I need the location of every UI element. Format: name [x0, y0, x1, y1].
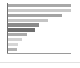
bar-8[interactable] [8, 38, 22, 41]
bar-9[interactable] [8, 43, 18, 46]
bar-chart-plot-area [0, 0, 80, 58]
bar-1[interactable] [8, 4, 71, 7]
bar-5[interactable] [8, 23, 39, 26]
bar-4[interactable] [8, 19, 48, 22]
bar-10[interactable] [8, 48, 17, 51]
chart-thumbnail[interactable]: Horizontal bar chart thumbnail with ten … [0, 0, 80, 68]
footer-separator [0, 62, 80, 63]
bar-3[interactable] [8, 14, 62, 17]
bar-7[interactable] [8, 33, 27, 36]
bar-6[interactable] [8, 28, 35, 31]
x-axis-line [7, 53, 71, 54]
bar-2[interactable] [8, 9, 71, 12]
